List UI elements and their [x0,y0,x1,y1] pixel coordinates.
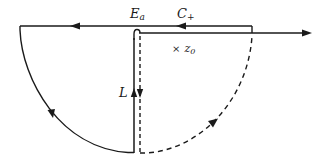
contour-diagram: Ea C+ ×z0 L [0,0,326,160]
pole-label: ×z0 [172,42,195,56]
vertical-path-label: L [118,85,128,100]
arrow-up-icon [131,88,137,97]
axis-arrow-icon [302,30,312,37]
real-axis [139,30,312,37]
arrow-down-icon [137,89,143,98]
pole-marker-icon: × [172,43,180,54]
branch-point-label: Ea [129,6,145,22]
contour-label: C+ [177,6,195,22]
arrow-left-icon [70,23,80,30]
arrow-left-icon [176,23,186,30]
right-arc-dashed [140,36,252,153]
arrow-down-icon [48,109,56,118]
left-semicircle-arc [20,26,134,153]
branch-point-loop [134,30,140,41]
